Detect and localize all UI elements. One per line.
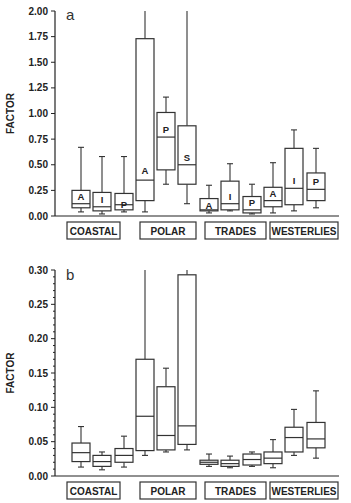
y-tick-label: 0.00 xyxy=(29,471,49,482)
y-tick-label: 0.20 xyxy=(29,333,49,344)
y-tick-label: 0.15 xyxy=(29,368,49,379)
box-coastal-1 xyxy=(93,452,111,470)
box-label: A xyxy=(142,165,149,176)
y-tick-label: 0.25 xyxy=(29,185,49,196)
iqr-box xyxy=(136,39,154,201)
y-tick-label: 0.10 xyxy=(29,402,49,413)
y-axis-label: FACTOR xyxy=(5,352,16,394)
group-label-westerlies: WESTERLIES xyxy=(271,226,336,237)
box-westerlies-p: P xyxy=(307,148,325,207)
y-tick-label: 0.50 xyxy=(29,159,49,170)
panel-a: 0.000.250.500.751.001.251.501.752.00FACT… xyxy=(5,6,339,240)
box-label: A xyxy=(270,188,277,199)
group-label-trades: TRADES xyxy=(215,486,256,497)
box-polar-3 xyxy=(136,270,154,455)
group-label-polar: POLAR xyxy=(151,486,187,497)
box-trades-i: I xyxy=(221,164,239,211)
box-plot-figure: 0.000.250.500.751.001.251.501.752.00FACT… xyxy=(0,0,351,503)
box-polar-4 xyxy=(157,368,175,452)
box-label: P xyxy=(313,176,320,187)
box-trades-a: A xyxy=(200,185,218,213)
iqr-box xyxy=(157,387,175,450)
group-label-coastal: COASTAL xyxy=(70,486,118,497)
y-tick-label: 0.00 xyxy=(29,211,49,222)
box-label: P xyxy=(163,124,170,135)
box-coastal-a: A xyxy=(72,147,90,212)
y-tick-label: 1.00 xyxy=(29,108,49,119)
box-label: I xyxy=(229,191,232,202)
box-label: P xyxy=(121,199,128,210)
box-coastal-p: P xyxy=(115,157,133,212)
iqr-box xyxy=(307,422,325,447)
group-label-coastal: COASTAL xyxy=(70,226,118,237)
iqr-box xyxy=(178,275,196,445)
iqr-box xyxy=(93,455,111,466)
box-westerlies-10 xyxy=(285,409,303,455)
box-coastal-2 xyxy=(115,436,133,467)
box-coastal-0 xyxy=(72,427,90,468)
box-polar-s: S xyxy=(178,11,196,204)
box-westerlies-11 xyxy=(307,391,325,458)
box-polar-5 xyxy=(178,270,196,450)
y-tick-label: 2.00 xyxy=(29,6,49,17)
group-label-westerlies: WESTERLIES xyxy=(271,486,336,497)
y-tick-label: 0.75 xyxy=(29,134,49,145)
box-westerlies-i: I xyxy=(285,130,303,211)
box-westerlies-9 xyxy=(264,440,282,468)
box-trades-7 xyxy=(221,456,239,468)
y-tick-label: 1.50 xyxy=(29,57,49,68)
y-tick-label: 0.05 xyxy=(29,436,49,447)
y-tick-label: 0.25 xyxy=(29,299,49,310)
iqr-box xyxy=(136,359,154,450)
y-tick-label: 0.30 xyxy=(29,265,49,276)
group-label-trades: TRADES xyxy=(215,226,256,237)
box-label: A xyxy=(206,200,213,211)
box-label: I xyxy=(293,175,296,186)
box-label: A xyxy=(78,191,85,202)
iqr-box xyxy=(157,112,175,169)
y-tick-label: 1.25 xyxy=(29,82,49,93)
box-polar-a: A xyxy=(136,11,154,212)
panel-label: a xyxy=(66,6,75,23)
group-label-polar: POLAR xyxy=(151,226,187,237)
y-tick-label: 1.75 xyxy=(29,31,49,42)
panel-label: b xyxy=(66,266,74,283)
box-westerlies-a: A xyxy=(264,163,282,213)
box-trades-6 xyxy=(200,454,218,466)
box-label: I xyxy=(101,194,104,205)
box-label: S xyxy=(184,152,190,163)
box-coastal-i: I xyxy=(93,157,111,214)
box-trades-8 xyxy=(243,452,261,466)
box-trades-p: P xyxy=(243,184,261,214)
box-polar-p: P xyxy=(157,97,175,184)
box-label: P xyxy=(249,197,256,208)
y-axis-label: FACTOR xyxy=(5,92,16,134)
iqr-box xyxy=(285,427,303,452)
panel-b: 0.000.050.100.150.200.250.30FACTORbCOAST… xyxy=(5,265,339,500)
